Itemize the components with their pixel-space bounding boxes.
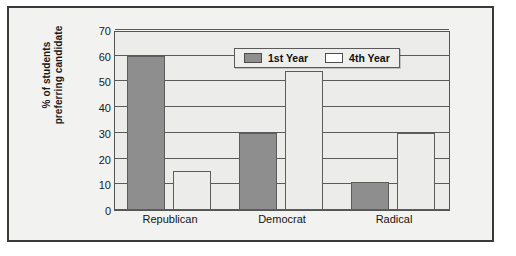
bar-republican-1st-year bbox=[127, 56, 165, 210]
plot-area: 1st Year 4th Year bbox=[114, 31, 450, 211]
bar-democrat-1st-year bbox=[239, 133, 277, 210]
y-tick-label-0: 0 bbox=[87, 206, 111, 216]
bar-democrat-4th-year bbox=[285, 71, 323, 210]
y-axis-title-line-2: preferring candidate bbox=[53, 26, 65, 125]
y-tick-label-70: 70 bbox=[87, 26, 111, 36]
x-label-radical: Radical bbox=[338, 213, 450, 225]
bar-republican-4th-year bbox=[173, 171, 211, 210]
dark-gray-swatch-icon bbox=[244, 53, 262, 63]
y-tick-label-40: 40 bbox=[87, 103, 111, 113]
legend-item-first-year: 1st Year bbox=[244, 52, 308, 64]
white-swatch-icon bbox=[325, 53, 343, 63]
gridline-70 bbox=[115, 29, 449, 30]
y-tick-label-50: 50 bbox=[87, 77, 111, 87]
chart-legend: 1st Year 4th Year bbox=[234, 48, 400, 68]
y-tick-label-20: 20 bbox=[87, 155, 111, 165]
y-axis-title-line-1: % of students bbox=[41, 42, 53, 109]
y-tick-label-30: 30 bbox=[87, 129, 111, 139]
bar-radical-4th-year bbox=[397, 133, 435, 210]
y-tick-label-60: 60 bbox=[87, 52, 111, 62]
y-axis-tick-labels: 010203040506070 bbox=[87, 26, 111, 210]
x-axis-category-labels: RepublicanDemocratRadical bbox=[114, 213, 450, 235]
y-tick-label-10: 10 bbox=[87, 180, 111, 190]
legend-item-fourth-year: 4th Year bbox=[325, 52, 390, 64]
x-label-republican: Republican bbox=[114, 213, 226, 225]
y-axis-title: % of students preferring candidate bbox=[38, 0, 68, 155]
legend-label-fourth-year: 4th Year bbox=[349, 52, 390, 64]
bar-radical-1st-year bbox=[351, 182, 389, 210]
chart-figure: % of students preferring candidate 01020… bbox=[7, 6, 494, 242]
legend-label-first-year: 1st Year bbox=[268, 52, 308, 64]
x-label-democrat: Democrat bbox=[226, 213, 338, 225]
